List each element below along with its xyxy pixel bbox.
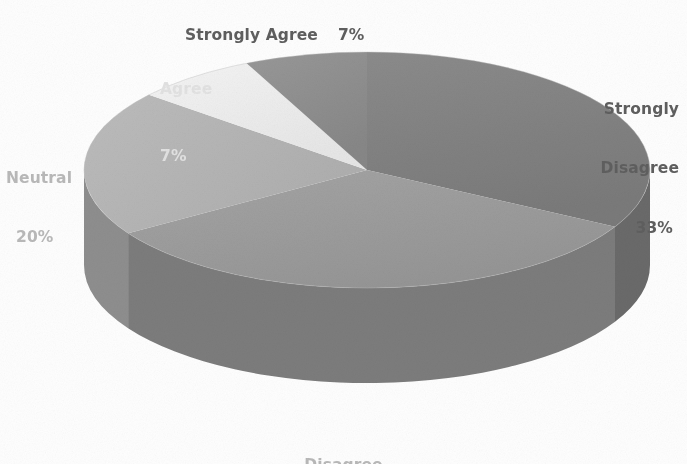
label-disagree: Disagree 33% — [0, 416, 687, 464]
label-strongly-disagree-name-line1: Strongly — [601, 100, 679, 120]
label-agree-percent: 7% — [160, 145, 212, 167]
label-disagree-name: Disagree — [0, 456, 687, 464]
label-strongly-disagree-name-line2: Disagree — [601, 159, 679, 179]
label-agree-name: Agree — [160, 78, 212, 100]
label-strongly-disagree-percent: 33% — [601, 219, 679, 239]
label-strongly-disagree: Strongly Disagree 33% — [601, 60, 679, 278]
label-agree: Agree 7% — [160, 33, 212, 213]
pie-chart-svg — [0, 0, 687, 464]
pie-chart-graphic — [0, 0, 687, 464]
pie-chart-figure: Strongly Agree7% Agree 7% Strongly Disag… — [0, 0, 687, 464]
label-strongly-agree-percent: 7% — [338, 26, 365, 44]
label-neutral-name: Neutral — [6, 169, 72, 189]
label-neutral-percent: 20% — [6, 228, 72, 248]
label-neutral: Neutral 20% — [6, 129, 72, 288]
